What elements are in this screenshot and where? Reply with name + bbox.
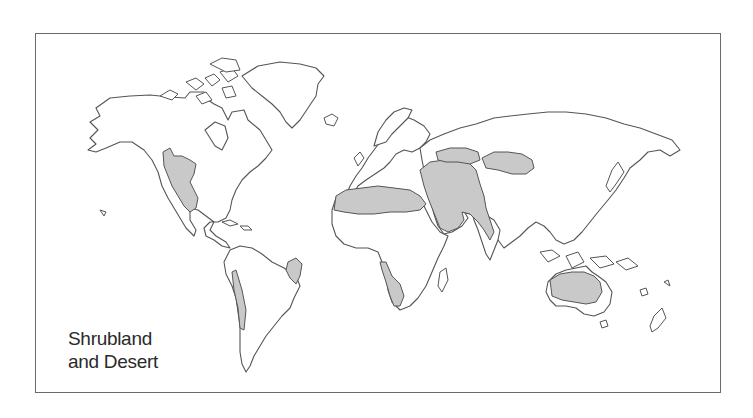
map-legend: Shrubland and Desert	[68, 327, 158, 373]
greenland	[242, 62, 324, 128]
desert-central-asia	[436, 148, 480, 164]
legend-line-2: and Desert	[68, 350, 158, 373]
legend-line-1: Shrubland	[68, 327, 158, 350]
desert-sahara	[334, 186, 426, 214]
